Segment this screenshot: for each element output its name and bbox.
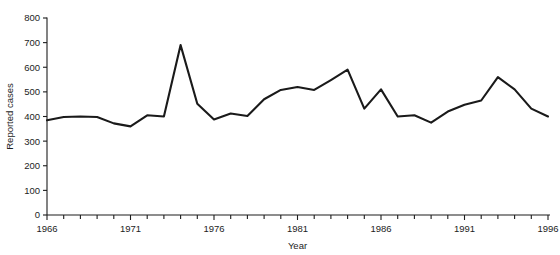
chart-background [0, 0, 560, 255]
x-tick-label: 1971 [120, 223, 141, 234]
x-tick-label: 1996 [537, 223, 558, 234]
x-tick-label: 1991 [454, 223, 475, 234]
y-tick-label: 500 [24, 86, 40, 97]
y-tick-label: 400 [24, 111, 40, 122]
y-tick-label: 800 [24, 12, 40, 23]
x-tick-label: 1986 [370, 223, 391, 234]
x-tick-label: 1981 [287, 223, 308, 234]
y-tick-label: 600 [24, 62, 40, 73]
y-tick-label: 100 [24, 185, 40, 196]
x-axis-title: Year [288, 240, 307, 251]
line-chart: 0100200300400500600700800 19661971197619… [0, 0, 560, 255]
y-axis-title: Reported cases [4, 83, 15, 150]
y-tick-label: 300 [24, 136, 40, 147]
x-tick-label: 1966 [36, 223, 57, 234]
y-tick-label: 700 [24, 37, 40, 48]
chart-canvas: 0100200300400500600700800 19661971197619… [0, 0, 560, 255]
y-tick-label: 0 [35, 209, 40, 220]
x-tick-label: 1976 [203, 223, 224, 234]
y-tick-label: 200 [24, 160, 40, 171]
